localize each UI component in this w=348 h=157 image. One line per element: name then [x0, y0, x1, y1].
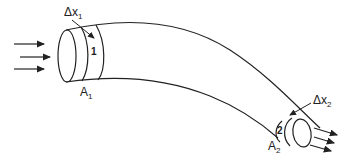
- flow-tube-diagram: Δx1 1 A1 Δx2 2 A2: [0, 0, 348, 157]
- delta-x1-label: Δx1: [64, 5, 83, 21]
- inlet-face: [58, 30, 76, 82]
- delta-x1-pointer: [72, 20, 94, 38]
- outlet-face: [291, 118, 314, 149]
- delta-x2-pointer: [290, 103, 311, 115]
- section-2-front: [285, 118, 292, 146]
- section-1-back: [96, 25, 104, 80]
- tube-outline: [66, 23, 320, 138]
- outflow-arrows: [310, 128, 337, 151]
- delta-x2-label: Δx2: [313, 93, 332, 109]
- inflow-arrows: [14, 44, 50, 69]
- section-2-label: 2: [277, 125, 283, 136]
- area-a1-label: A1: [80, 85, 93, 101]
- section-1-label: 1: [91, 46, 97, 57]
- section-1-front: [81, 27, 88, 81]
